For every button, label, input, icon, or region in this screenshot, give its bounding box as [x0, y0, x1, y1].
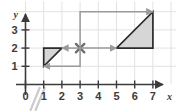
x-tick-label: 6	[132, 90, 138, 102]
x-axis-label: x	[166, 91, 172, 102]
y-axis-label: y	[13, 9, 19, 20]
x-tick-label: 7	[150, 90, 156, 102]
x-tick-label: 5	[113, 90, 119, 102]
x-tick-label: 4	[95, 90, 102, 102]
x-tick-label: 3	[77, 90, 83, 102]
x-tick-label: 0	[22, 90, 28, 102]
coordinate-plane-figure: 01234567123 x y	[0, 0, 183, 112]
plot-canvas: 01234567123 x y	[0, 0, 183, 112]
y-tick-label: 2	[11, 42, 17, 54]
x-tick-label: 1	[41, 90, 47, 102]
x-tick-label: 2	[59, 90, 65, 102]
y-tick-label: 1	[11, 60, 17, 72]
y-tick-label: 3	[11, 24, 17, 36]
